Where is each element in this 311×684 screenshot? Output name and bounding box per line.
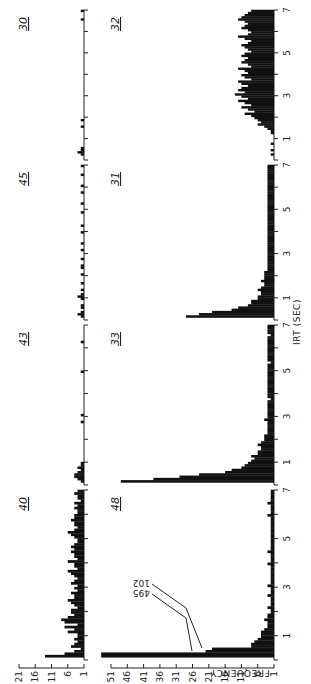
histogram-bar	[264, 628, 274, 631]
histogram-bar	[264, 418, 274, 421]
histogram-bar	[81, 202, 84, 205]
histogram-bar	[267, 430, 274, 433]
frequency-axis-top: 21161161	[14, 664, 89, 682]
histogram-bar	[267, 128, 274, 130]
frequency-tick-label: 6	[63, 671, 73, 677]
histogram-bar	[74, 521, 84, 524]
histogram-bar	[267, 193, 274, 196]
histogram-bar	[271, 567, 274, 570]
histogram-bar	[267, 338, 274, 341]
histogram-bar	[271, 132, 274, 134]
histogram-bar	[81, 469, 84, 472]
histogram-bar	[74, 514, 84, 517]
histogram-bar	[267, 233, 274, 236]
histogram-panel-31: 135731	[109, 162, 292, 320]
histogram-bar	[81, 165, 84, 168]
histogram-figure: 4043453021161161135748135733135731135732…	[0, 0, 311, 684]
histogram-bar	[71, 592, 84, 595]
histogram-bar	[238, 35, 274, 37]
histogram-bar	[271, 509, 274, 512]
histogram-bar	[251, 645, 274, 648]
histogram-bar	[245, 76, 274, 78]
histogram-bar	[271, 143, 274, 145]
histogram-bar	[68, 531, 84, 534]
histogram-bar	[81, 370, 84, 373]
panel-label: 48	[109, 497, 122, 511]
histogram-bar	[78, 512, 85, 515]
histogram-bar	[267, 236, 274, 239]
histogram-bar	[271, 499, 274, 502]
histogram-bar	[251, 65, 274, 67]
histogram-bar	[74, 507, 84, 510]
histogram-bar	[271, 526, 274, 529]
histogram-bar	[81, 414, 84, 417]
histogram-bar	[241, 83, 274, 85]
histogram-bar	[261, 121, 274, 123]
irt-axis-title: IRT (SEC)	[292, 299, 302, 345]
histogram-bar	[267, 621, 274, 624]
frequency-tick-label: 31	[171, 671, 181, 682]
histogram-bar	[235, 93, 274, 95]
histogram-bar	[267, 594, 274, 597]
frequency-tick-label: 11	[47, 671, 57, 682]
histogram-bar	[241, 16, 274, 18]
histogram-bar	[241, 74, 274, 76]
panels-group: 4043453021161161135748135733135731135732…	[14, 7, 292, 682]
histogram-bar	[271, 560, 274, 563]
irt-tick-label: 1	[282, 136, 292, 142]
histogram-bar	[267, 224, 274, 227]
histogram-bar	[267, 345, 274, 348]
histogram-bar	[267, 180, 274, 183]
histogram-bar	[71, 519, 84, 522]
histogram-bar	[81, 293, 84, 296]
histogram-bar	[248, 72, 274, 74]
irt-tick-label: 1	[282, 459, 292, 465]
histogram-bar	[267, 382, 274, 385]
histogram-bar	[251, 50, 274, 52]
histogram-bar	[267, 258, 274, 261]
histogram-bar	[74, 575, 84, 578]
histogram-bar	[81, 125, 84, 127]
histogram-bar	[264, 434, 274, 437]
histogram-bar	[271, 519, 274, 522]
histogram-bar	[241, 27, 274, 29]
histogram-bar	[251, 115, 274, 117]
histogram-bar	[248, 63, 274, 65]
histogram-bar	[261, 446, 274, 449]
histogram-bar	[271, 533, 274, 536]
histogram-bar	[267, 384, 274, 387]
histogram-bar	[267, 196, 274, 199]
histogram-bar	[267, 247, 274, 250]
histogram-bar	[241, 466, 274, 469]
histogram-bar	[241, 87, 274, 89]
histogram-bar	[71, 611, 84, 614]
histogram-bar	[271, 521, 274, 524]
histogram-bar	[245, 25, 274, 27]
histogram-bar	[251, 460, 274, 463]
histogram-bar	[271, 531, 274, 534]
histogram-bar	[258, 453, 274, 456]
panel-label: 30	[17, 17, 30, 31]
histogram-bar	[74, 563, 84, 566]
histogram-bar	[248, 85, 274, 87]
histogram-bar	[271, 504, 274, 507]
histogram-bar	[267, 423, 274, 426]
histogram-bar	[61, 618, 84, 621]
histogram-bar	[271, 565, 274, 568]
histogram-bar	[81, 304, 84, 307]
histogram-bar	[267, 264, 274, 267]
histogram-bar	[267, 352, 274, 355]
panel-label: 40	[17, 497, 30, 511]
histogram-bar	[271, 555, 274, 558]
histogram-bar	[264, 271, 274, 274]
histogram-bar	[251, 643, 274, 646]
histogram-bar	[267, 393, 274, 396]
histogram-bar	[232, 309, 274, 312]
histogram-bar	[225, 471, 274, 474]
histogram-bar	[267, 386, 274, 389]
histogram-bar	[258, 289, 274, 292]
histogram-bar	[248, 12, 274, 14]
histogram-bar	[267, 584, 274, 587]
histogram-bar	[258, 450, 274, 453]
histogram-bar	[267, 262, 274, 265]
